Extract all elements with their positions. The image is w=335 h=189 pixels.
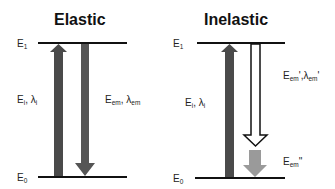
energy-loss-label: Eem'' [283,156,303,168]
hollow-emission-arrow [244,44,267,146]
inelastic-title: Inelastic [204,11,268,28]
excitation-arrow [221,44,238,177]
upper-level-label: E1 [173,38,184,50]
energy-diagram: Elastic E1 E0 Ei, λi Eem, λem Inelastic … [0,0,335,189]
elastic-title: Elastic [54,11,106,28]
emission-label: Eem',λem' [283,70,319,82]
excitation-arrow [50,44,67,176]
emission-arrow [75,44,95,176]
excitation-label: Ei, λi [185,97,205,109]
emission-label: Eem, λem [105,94,140,106]
upper-level-label: E1 [17,38,28,50]
elastic-panel: Elastic E1 E0 Ei, λi Eem, λem [17,11,140,184]
energy-loss-arrow [243,150,267,177]
lower-level-label: E0 [173,173,184,185]
excitation-label: Ei, λi [17,94,37,106]
lower-level-label: E0 [17,172,28,184]
inelastic-panel: Inelastic E1 E0 Ei, λi Eem',λem' Eem'' [173,11,319,185]
